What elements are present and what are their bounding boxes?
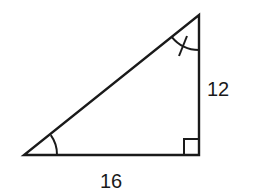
angle-arc-bottom-left [51,135,57,155]
right-triangle-diagram: 12 16 [0,0,254,191]
label-horizontal-leg: 16 [100,170,122,191]
triangle [24,15,199,155]
label-vertical-leg: 12 [207,78,229,100]
angle-tick-mark [179,36,187,56]
right-angle-marker [184,139,199,155]
